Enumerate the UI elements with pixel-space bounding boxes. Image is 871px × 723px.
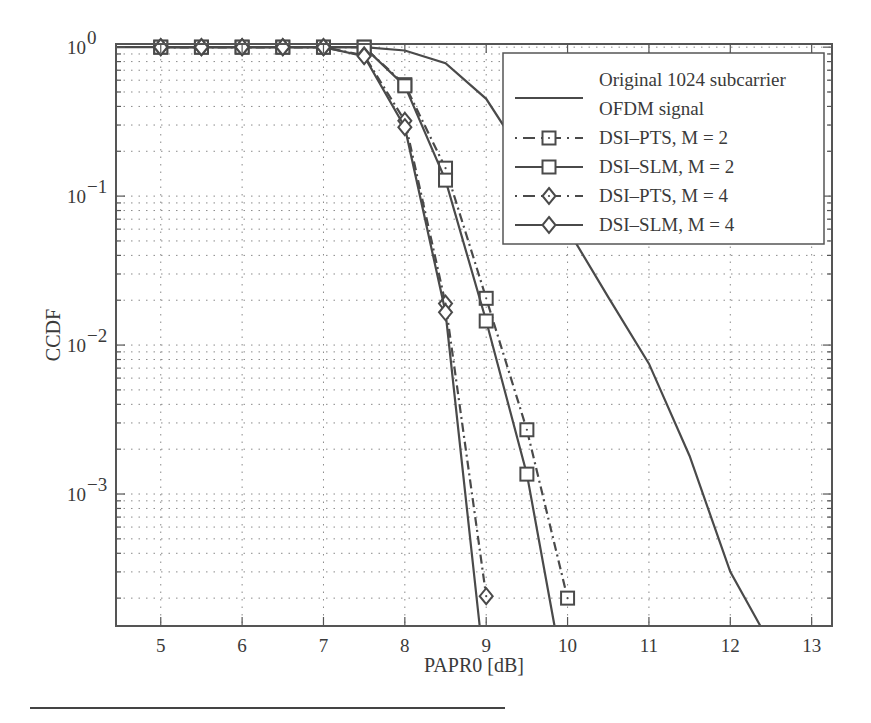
y-tick-exponent: −1 [87, 176, 107, 197]
x-tick-label: 12 [721, 635, 740, 656]
x-tick-label: 10 [558, 635, 577, 656]
y-axis-label: CCDF [42, 309, 64, 361]
legend-label: DSI–PTS, M = 2 [599, 127, 728, 148]
legend-label: DSI–SLM, M = 4 [599, 214, 735, 235]
x-tick-label: 5 [156, 635, 166, 656]
y-tick-label: 10 [67, 186, 86, 207]
series-4 [154, 39, 479, 626]
legend: Original 1024 subcarrierOFDM signalDSI–P… [503, 53, 824, 244]
legend-label: DSI–PTS, M = 4 [599, 185, 728, 206]
y-tick-label: 10 [67, 484, 86, 505]
y-tick-labels: 10010−110−210−3 [67, 27, 107, 505]
legend-label: Original 1024 subcarrier [599, 69, 786, 90]
x-tick-label: 13 [802, 635, 821, 656]
x-axis-label: PAPR0 [dB] [424, 654, 524, 676]
series-2 [154, 41, 554, 626]
y-tick-exponent: 0 [87, 27, 97, 48]
x-tick-labels: 5678910111213 [156, 635, 821, 656]
legend-label: DSI–SLM, M = 2 [599, 156, 734, 177]
x-tick-label: 8 [400, 635, 410, 656]
bottom-rule [30, 707, 505, 709]
ccdf-chart: 5678910111213 10010−110−210−3 PAPR0 [dB]… [0, 0, 871, 723]
legend-label: OFDM signal [599, 98, 704, 119]
y-tick-label: 10 [67, 37, 86, 58]
x-tick-label: 6 [237, 635, 247, 656]
legend-entry: DSI–SLM, M = 4 [515, 214, 735, 235]
x-tick-label: 11 [640, 635, 658, 656]
y-tick-exponent: −2 [87, 325, 107, 346]
y-tick-exponent: −3 [87, 474, 107, 495]
x-tick-label: 9 [481, 635, 491, 656]
x-tick-label: 7 [319, 635, 329, 656]
y-tick-label: 10 [67, 335, 86, 356]
